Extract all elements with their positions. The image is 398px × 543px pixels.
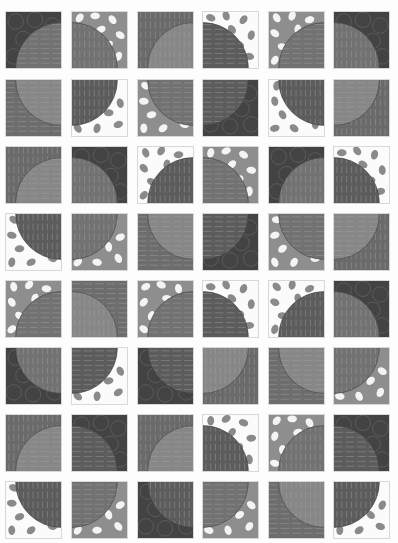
quilt-block <box>333 280 390 338</box>
quilt-block <box>71 414 128 472</box>
quilt-block <box>137 481 194 539</box>
quarter-circle-block-art <box>72 281 127 337</box>
quarter-circle-block-art <box>6 281 61 337</box>
quarter-circle-block-art <box>6 12 61 68</box>
quilt-block <box>5 414 62 472</box>
quilt-block <box>137 11 194 69</box>
quilt-block <box>5 481 62 539</box>
quilt-block <box>137 213 194 271</box>
quarter-circle-block-art <box>72 80 127 136</box>
quarter-circle-block-art <box>138 80 193 136</box>
quilt-block <box>71 280 128 338</box>
quilt-block <box>71 347 128 405</box>
quarter-circle-block-art <box>72 214 127 270</box>
quilt-block <box>202 11 259 69</box>
quilt-block <box>333 11 390 69</box>
quarter-circle-block-art <box>269 80 324 136</box>
quilt-block <box>202 146 259 204</box>
quilt-block <box>5 280 62 338</box>
quarter-circle-block-art <box>269 482 324 538</box>
quilt-block <box>71 213 128 271</box>
quilt-block <box>137 146 194 204</box>
quilt-block <box>333 481 390 539</box>
quarter-circle-block-art <box>6 415 61 471</box>
quilt-block <box>268 213 325 271</box>
quarter-circle-block-art <box>203 147 258 203</box>
quarter-circle-block-art <box>72 147 127 203</box>
quarter-circle-block-art <box>138 348 193 404</box>
quarter-circle-block-art <box>203 214 258 270</box>
quarter-circle-block-art <box>269 147 324 203</box>
quarter-circle-block-art <box>269 12 324 68</box>
quilt-block <box>333 347 390 405</box>
quilt-block <box>137 79 194 137</box>
quilt-block <box>268 146 325 204</box>
quarter-circle-block-art <box>269 415 324 471</box>
quilt-block <box>71 481 128 539</box>
quilt-block <box>5 79 62 137</box>
quarter-circle-block-art <box>334 415 389 471</box>
quarter-circle-block-art <box>334 281 389 337</box>
quarter-circle-block-art <box>138 482 193 538</box>
quarter-circle-block-art <box>334 348 389 404</box>
quarter-circle-block-art <box>138 415 193 471</box>
quilt-block <box>202 481 259 539</box>
quarter-circle-block-art <box>72 482 127 538</box>
quilt-block <box>137 280 194 338</box>
quilt-block <box>202 280 259 338</box>
quarter-circle-block-art <box>203 348 258 404</box>
quilt-block <box>268 347 325 405</box>
quarter-circle-block-art <box>269 348 324 404</box>
quarter-circle-block-art <box>334 12 389 68</box>
quarter-circle-block-art <box>138 281 193 337</box>
quarter-circle-block-art <box>138 214 193 270</box>
quilt-block <box>202 414 259 472</box>
quilt-block <box>137 414 194 472</box>
quilt-block <box>268 11 325 69</box>
quilt-grid <box>0 0 398 543</box>
quarter-circle-block-art <box>334 80 389 136</box>
quarter-circle-block-art <box>6 348 61 404</box>
quilt-block <box>71 79 128 137</box>
quilt-block <box>268 414 325 472</box>
quilt-block <box>333 213 390 271</box>
quarter-circle-block-art <box>138 147 193 203</box>
quarter-circle-block-art <box>72 12 127 68</box>
quilt-block <box>5 11 62 69</box>
quarter-circle-block-art <box>203 281 258 337</box>
quarter-circle-block-art <box>203 80 258 136</box>
quilt-block <box>5 146 62 204</box>
quarter-circle-block-art <box>6 147 61 203</box>
quilt-block <box>5 347 62 405</box>
quilt-block <box>71 11 128 69</box>
quarter-circle-block-art <box>6 482 61 538</box>
quilt-block <box>202 347 259 405</box>
quarter-circle-block-art <box>203 482 258 538</box>
quarter-circle-block-art <box>269 281 324 337</box>
quarter-circle-block-art <box>203 415 258 471</box>
quilt-block <box>5 213 62 271</box>
quilt-block <box>268 280 325 338</box>
quarter-circle-block-art <box>334 214 389 270</box>
quilt-block <box>137 347 194 405</box>
quilt-block <box>202 79 259 137</box>
quilt-block <box>202 213 259 271</box>
quilt-block <box>333 414 390 472</box>
quarter-circle-block-art <box>6 80 61 136</box>
quarter-circle-block-art <box>203 12 258 68</box>
quarter-circle-block-art <box>72 415 127 471</box>
quilt-block <box>333 146 390 204</box>
quarter-circle-block-art <box>334 482 389 538</box>
quarter-circle-block-art <box>138 12 193 68</box>
quarter-circle-block-art <box>269 214 324 270</box>
quilt-block <box>268 481 325 539</box>
quarter-circle-block-art <box>6 214 61 270</box>
quilt-block <box>333 79 390 137</box>
quarter-circle-block-art <box>334 147 389 203</box>
quilt-block <box>71 146 128 204</box>
quilt-block <box>268 79 325 137</box>
quarter-circle-block-art <box>72 348 127 404</box>
